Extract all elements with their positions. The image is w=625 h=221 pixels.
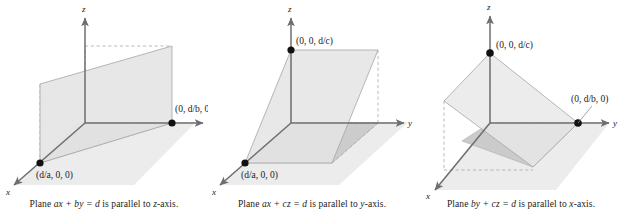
caption-equation: ax + cz = d bbox=[262, 199, 307, 209]
x-axis-label: x bbox=[5, 187, 10, 197]
y-intercept-label: (0, d/b, 0) bbox=[175, 104, 208, 115]
caption-tail: -axis. bbox=[157, 199, 178, 209]
z-intercept-dot bbox=[287, 46, 294, 53]
z-intercept-label: (0, 0, d/c) bbox=[496, 40, 533, 51]
panel-3-diagram: z y x (0, 0, d/c) (0, d/b, 0) bbox=[417, 0, 625, 199]
panel-plane-parallel-to-y-axis: z y x (0, 0, d/c) (d/a, 0, 0) Plane ax +… bbox=[208, 0, 416, 221]
panel-plane-parallel-to-z-axis: z x (0, d/b, 0) (d/a, 0, 0) Plane ax + b… bbox=[0, 0, 208, 221]
panel-plane-parallel-to-x-axis: z y x (0, 0, d/c) (0, d/b, 0) Plane by +… bbox=[417, 0, 625, 221]
x-axis-label: x bbox=[425, 191, 430, 199]
y-intercept-label: (0, d/b, 0) bbox=[571, 94, 608, 105]
caption-equation: by + cz = d bbox=[471, 199, 516, 209]
y-axis-label: y bbox=[407, 118, 412, 128]
x-intercept-label: (d/a, 0, 0) bbox=[241, 170, 278, 181]
caption-mid: is parallel to bbox=[100, 199, 153, 209]
caption-tail: -axis. bbox=[574, 199, 595, 209]
z-axis-label: z bbox=[287, 4, 292, 14]
z-intercept-dot bbox=[486, 49, 494, 57]
z-axis-label: z bbox=[486, 2, 491, 12]
panel-1-diagram: z x (0, d/b, 0) (d/a, 0, 0) bbox=[0, 0, 208, 199]
caption-mid: is parallel to bbox=[307, 199, 360, 209]
panel-2-caption: Plane ax + cz = d is parallel to y-axis. bbox=[208, 199, 416, 209]
x-intercept-dot bbox=[241, 159, 248, 166]
panel-3-caption: Plane by + cz = d is parallel to x-axis. bbox=[417, 199, 625, 209]
x-axis-label: x bbox=[211, 187, 216, 197]
y-axis-label: y bbox=[612, 118, 617, 128]
plane-orientation-figure: z x (0, d/b, 0) (d/a, 0, 0) Plane ax + b… bbox=[0, 0, 625, 221]
caption-lead: Plane bbox=[447, 199, 471, 209]
y-intercept-leader-line bbox=[578, 106, 592, 123]
x-intercept-dot bbox=[36, 159, 43, 166]
x-intercept-label: (d/a, 0, 0) bbox=[36, 170, 73, 181]
z-axis-label: z bbox=[81, 4, 86, 14]
caption-tail: -axis. bbox=[365, 199, 386, 209]
y-intercept-dot bbox=[168, 119, 175, 126]
caption-equation: ax + by = d bbox=[54, 199, 100, 209]
panel-2-diagram: z y x (0, 0, d/c) (d/a, 0, 0) bbox=[208, 0, 416, 199]
caption-lead: Plane bbox=[30, 199, 54, 209]
z-intercept-label: (0, 0, d/c) bbox=[296, 36, 333, 47]
panel-1-caption: Plane ax + by = d is parallel to z-axis. bbox=[0, 199, 208, 209]
caption-lead: Plane bbox=[238, 199, 262, 209]
caption-mid: is parallel to bbox=[516, 199, 569, 209]
